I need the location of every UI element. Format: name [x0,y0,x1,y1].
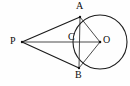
point-label-a: A [76,1,83,11]
geometry-figure: P A B C O [0,0,130,86]
point-label-p: P [10,36,16,46]
vertex-point-o [99,41,102,44]
point-label-b: B [75,70,82,80]
radius-ao [80,17,100,42]
point-label-c: C [68,32,75,42]
point-label-o: O [103,35,110,45]
vertex-point-a [79,16,81,18]
geometry-canvas [0,0,130,86]
vertex-point-p [21,41,23,43]
radius-bo [79,42,100,68]
tangent-line-pb [22,42,79,68]
